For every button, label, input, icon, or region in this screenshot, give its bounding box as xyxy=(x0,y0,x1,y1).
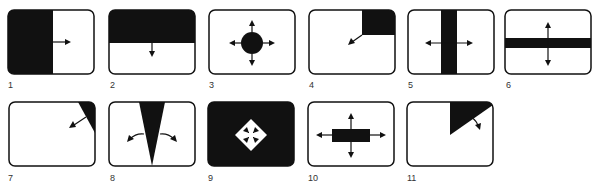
panel-label: 8 xyxy=(110,173,115,183)
panel-2-vertical-wipe xyxy=(108,9,196,75)
panel-label: 2 xyxy=(110,80,115,90)
panel-9-diamond-iris xyxy=(207,101,295,167)
panel-6-horizontal-bar xyxy=(504,9,592,75)
arrow-down-icon xyxy=(149,43,155,57)
panel-label: 10 xyxy=(308,173,318,183)
panel-label: 9 xyxy=(208,173,213,183)
arrow-down-left-icon xyxy=(348,35,362,45)
panel-3-circle-iris xyxy=(208,9,296,75)
panel-label: 4 xyxy=(309,80,314,90)
panel-7-diagonal-corner xyxy=(8,101,96,167)
panel-10-box-expand xyxy=(307,101,395,167)
panel-label: 6 xyxy=(506,80,511,90)
panel-1-horizontal-wipe xyxy=(7,9,95,75)
panel-11-clock-sweep xyxy=(406,101,494,167)
arrow-right-icon xyxy=(53,39,71,45)
panel-label: 5 xyxy=(408,80,413,90)
panel-label: 3 xyxy=(209,80,214,90)
panel-5-vertical-bar xyxy=(407,9,495,75)
arrow-down-left-icon xyxy=(69,117,86,128)
panel-4-corner-box xyxy=(308,9,396,75)
panel-label: 1 xyxy=(8,80,13,90)
panel-label: 7 xyxy=(8,173,13,183)
panel-label: 11 xyxy=(407,173,416,183)
panel-8-v-wedge xyxy=(108,101,196,167)
